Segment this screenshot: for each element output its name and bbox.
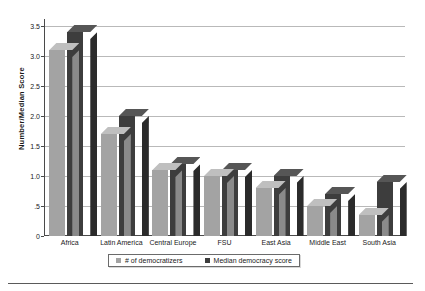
y-axis-tick-label: .5 <box>34 203 40 210</box>
bar-front-face <box>152 170 168 236</box>
chart-container: Number/Median Score 3.53.02.52.01.51.0.5… <box>0 0 425 291</box>
bar-side-face <box>124 134 131 236</box>
bar-front-face <box>49 50 65 236</box>
bar-side-face <box>245 170 252 236</box>
legend-label: # of democratizers <box>125 257 183 264</box>
x-axis-label: FSU <box>218 239 232 246</box>
bar-side-face <box>193 164 200 236</box>
y-axis-tick-label: 0 <box>36 233 40 240</box>
legend-swatch-icon <box>116 258 121 263</box>
y-axis-tick-label: 1.5 <box>30 143 40 150</box>
bar-democratizers <box>256 181 279 236</box>
bar-democratizers <box>204 169 227 236</box>
bar-front-face <box>359 215 375 236</box>
y-axis-title: Number/Median Score <box>17 44 26 174</box>
bar-top-face <box>377 175 407 182</box>
bar-front-face <box>256 188 272 236</box>
y-axis-line <box>44 19 45 236</box>
x-axis-label: Latin America <box>100 239 142 246</box>
bar-top-face <box>325 187 355 194</box>
bar-side-face <box>348 194 355 236</box>
x-axis-label: Middle East <box>309 239 346 246</box>
bar-side-face <box>175 170 182 236</box>
bar-democratizers <box>359 208 382 236</box>
bar-democratizers <box>152 163 175 236</box>
y-axis-tick-label: 3.0 <box>30 53 40 60</box>
bar-democratizers <box>307 199 330 236</box>
bar-top-face <box>67 25 97 32</box>
bar-side-face <box>279 188 286 236</box>
bar-front-face <box>204 176 220 236</box>
legend-item: # of democratizers <box>116 257 183 264</box>
legend-item: Median democracy score <box>205 257 292 264</box>
bar-democratizers <box>49 43 72 236</box>
x-axis-label: South Asia <box>362 239 395 246</box>
x-axis-labels: South AsiaMiddle EastEast AsiaFSUCentral… <box>44 239 405 251</box>
chart-legend: # of democratizersMedian democracy score <box>108 254 300 267</box>
y-axis-tick-label: 2.0 <box>30 113 40 120</box>
bar-side-face <box>72 50 79 236</box>
y-axis-tick-label: 1.0 <box>30 173 40 180</box>
y-axis-tick-mark <box>41 236 44 237</box>
bar-side-face <box>297 176 304 236</box>
bar-front-face <box>101 134 117 236</box>
bar-front-face <box>307 206 323 236</box>
bar-side-face <box>142 116 149 236</box>
x-axis-label: Central Europe <box>149 239 196 246</box>
bars-layer <box>44 19 405 236</box>
bar-side-face <box>227 176 234 236</box>
y-axis-tick-label: 2.5 <box>30 83 40 90</box>
legend-label: Median democracy score <box>214 257 292 264</box>
bottom-divider <box>8 283 413 284</box>
bar-top-face <box>274 169 304 176</box>
bar-top-face <box>119 109 149 116</box>
x-axis-label: East Asia <box>261 239 290 246</box>
x-axis-label: Africa <box>61 239 79 246</box>
legend-swatch-icon <box>205 258 210 263</box>
bar-side-face <box>90 32 97 236</box>
bar-side-face <box>400 182 407 236</box>
y-axis-tick-label: 3.5 <box>30 23 40 30</box>
plot-area: 3.53.02.52.01.51.0.50 <box>44 19 405 236</box>
bar-democratizers <box>101 127 124 236</box>
